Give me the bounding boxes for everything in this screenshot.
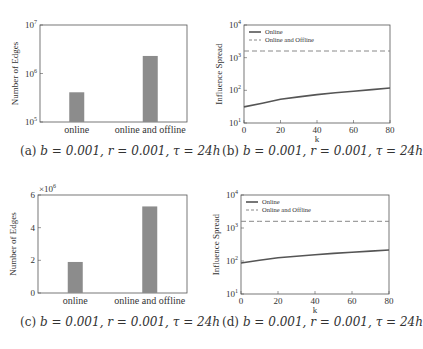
x-tick-label: 0 <box>239 296 244 306</box>
caption-d-label: (d) <box>222 315 239 329</box>
legend-label: Online and Offline <box>262 206 311 213</box>
y-tick-label: 102 <box>226 255 238 266</box>
series-online <box>241 250 389 263</box>
legend-label: Online <box>262 198 280 205</box>
x-tick-label: 80 <box>385 296 395 306</box>
caption-d: (d) b = 0.001, r = 0.001, τ = 24h <box>222 315 392 329</box>
y-tick-label: 104 <box>226 189 238 200</box>
y-axis-label: Influence Spread <box>211 213 221 275</box>
x-axis-label: k <box>313 305 318 315</box>
y-tick-label: 101 <box>226 288 238 299</box>
x-tick-label: 20 <box>274 296 284 306</box>
caption-d-params: b = 0.001, r = 0.001, τ = 24h <box>243 315 423 329</box>
x-tick-label: 60 <box>348 296 358 306</box>
y-tick-label: 103 <box>226 222 238 233</box>
